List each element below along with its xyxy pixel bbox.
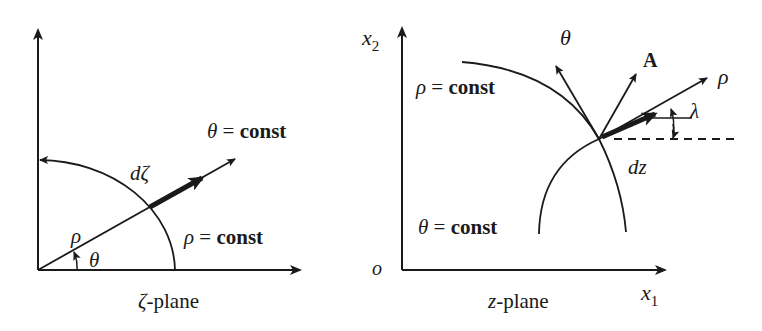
x1-axis-label: x1 [640, 280, 658, 309]
rho-const-arc [40, 160, 175, 270]
zeta-plane-caption: ζ-plane [138, 289, 199, 313]
theta-label: θ [89, 248, 99, 272]
rho-const-label: ρ = const [415, 75, 495, 99]
lambda-label: λ [689, 99, 699, 123]
theta-arrow-label: θ [560, 25, 571, 50]
rho-const-label: ρ = const [183, 225, 263, 249]
theta-const-label: θ = const [207, 119, 286, 143]
dz-thick-arrow [602, 114, 655, 137]
dz-label: dz [628, 155, 647, 179]
rho-label: ρ [70, 224, 81, 248]
z-plane-panel: x2 o x1 ρ = const θ = const θ A ρ λ dz z… [361, 25, 734, 313]
d-zeta-label: dζ [130, 161, 151, 185]
zeta-plane-panel: θ = const dζ ρ = const ρ θ ζ-plane [38, 30, 300, 313]
A-vector-label: A [643, 49, 658, 71]
origin-label: o [372, 257, 382, 279]
z-plane-caption: z-plane [487, 289, 549, 313]
rho-arrow-label: ρ [717, 64, 729, 89]
theta-angle-arc [74, 252, 77, 270]
theta-const-curve [539, 139, 599, 234]
conformal-mapping-diagram: θ = const dζ ρ = const ρ θ ζ-plane [0, 0, 762, 331]
x2-axis-label: x2 [361, 25, 379, 54]
theta-direction-arrow [556, 66, 599, 139]
d-zeta-thick-arrow [150, 178, 202, 207]
theta-const-label: θ = const [418, 215, 497, 239]
